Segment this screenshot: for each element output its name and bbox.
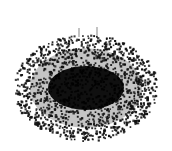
dense-core [48, 66, 124, 110]
network-graph-canvas [0, 0, 172, 151]
network-graph [0, 0, 172, 151]
